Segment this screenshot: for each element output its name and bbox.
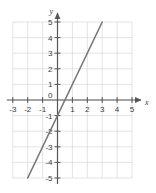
x-tick-label: 2 — [85, 105, 90, 114]
x-tick-label: -3 — [9, 105, 17, 114]
y-tick-label: -4 — [45, 158, 53, 167]
coordinate-plane-chart: -3-2-11234554321-1-2-3-4-50 xy — [0, 0, 156, 193]
y-tick-label: 1 — [48, 80, 53, 89]
x-tick-label: 5 — [130, 105, 135, 114]
y-tick-label: -5 — [45, 174, 53, 183]
y-axis-label: y — [49, 7, 54, 16]
origin-label: 0 — [48, 91, 53, 100]
y-tick-label: -1 — [45, 112, 53, 121]
axis-lines — [7, 13, 141, 184]
x-tick-label: -2 — [24, 105, 32, 114]
x-tick-label: 3 — [100, 105, 105, 114]
y-tick-label: 3 — [48, 49, 53, 58]
y-tick-label: 5 — [48, 18, 53, 27]
x-axis-label: x — [144, 98, 149, 107]
y-tick-label: -3 — [45, 143, 53, 152]
chart-canvas: -3-2-11234554321-1-2-3-4-50 xy — [0, 0, 156, 193]
x-tick-label: 1 — [70, 105, 75, 114]
y-tick-label: 4 — [48, 34, 53, 43]
y-tick-label: 2 — [48, 65, 53, 74]
x-tick-label: 4 — [115, 105, 120, 114]
